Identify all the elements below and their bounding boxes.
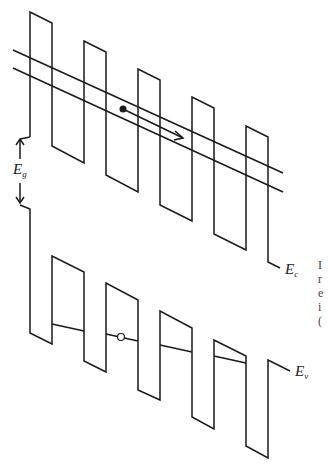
side-text-fragment: i [318, 300, 328, 314]
conduction-miniband-line [13, 68, 283, 192]
valence-miniband-line [214, 356, 246, 363]
hole-icon [118, 334, 125, 341]
valence-band-label: Ev [295, 364, 308, 381]
band-gap-label: Eg [13, 162, 27, 179]
valence-band-subscript: v [304, 371, 308, 381]
conduction-band-symbol: E [285, 261, 294, 277]
valence-band-symbol: E [295, 363, 304, 379]
side-text-fragment: ( [318, 314, 328, 328]
conduction-band-profile [30, 12, 280, 268]
valence-miniband-line [160, 345, 192, 352]
band-gap-symbol: E [13, 161, 22, 177]
side-text-fragment: e [318, 286, 328, 300]
valence-band-profile [20, 205, 290, 458]
clipped-side-text: Irei( [318, 258, 328, 328]
side-text-fragment: r [318, 272, 328, 286]
valence-miniband-line [52, 324, 84, 331]
gap-connector [20, 137, 30, 139]
conduction-miniband-line [13, 50, 283, 173]
band-gap-subscript: g [22, 169, 27, 179]
valence-minibands [52, 324, 246, 363]
side-text-fragment: I [318, 258, 328, 272]
conduction-band-subscript: c [294, 269, 298, 279]
conduction-band-label: Ec [285, 262, 298, 279]
